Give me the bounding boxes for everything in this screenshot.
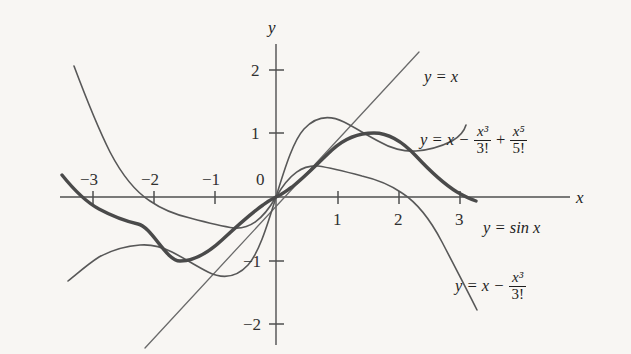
annotation-taylor-3rd: y = x − x³ 3! xyxy=(455,271,527,304)
x-tick-label-3: 3 xyxy=(455,210,464,229)
curve-identity xyxy=(145,52,419,348)
annotation-taylor-5th: y = x − x³ 3! + x⁵ 5! xyxy=(420,125,528,158)
x-tick-label--3: −3 xyxy=(80,170,98,189)
plot-canvas: y x −3 −2 −1 0 1 2 3 2 1 −1 −2 xyxy=(0,0,631,354)
fraction-denominator: 3! xyxy=(474,140,491,157)
y-tick-label--1: −1 xyxy=(243,252,261,271)
annotation-sine-text: y = sin x xyxy=(483,218,540,237)
y-tick-label-2: 2 xyxy=(251,61,260,80)
x-tick-label--1: −1 xyxy=(202,170,220,189)
taylor-series-figure: y x −3 −2 −1 0 1 2 3 2 1 −1 −2 y = x y =… xyxy=(0,0,631,354)
fraction-numerator: x⁵ xyxy=(510,124,527,140)
y-axis-label: y xyxy=(266,18,276,37)
fraction-denominator: 3! xyxy=(509,286,526,303)
fraction-numerator: x³ xyxy=(509,270,526,286)
fraction-x3-over-3fact: x³ 3! xyxy=(509,270,526,303)
y-tick-label--2: −2 xyxy=(243,315,261,334)
annotation-taylor-5th-plus: + xyxy=(496,130,505,149)
fraction-denominator: 5! xyxy=(510,140,527,157)
fraction-x5-over-5fact: x⁵ 5! xyxy=(510,124,527,157)
annotation-taylor-3rd-prefix: y = x − xyxy=(455,276,504,295)
x-tick-label-0: 0 xyxy=(256,170,265,189)
x-tick-label--2: −2 xyxy=(141,170,159,189)
curve-taylor-5th xyxy=(68,118,466,281)
x-axis-label: x xyxy=(575,188,584,207)
annotation-identity: y = x xyxy=(424,67,458,87)
annotation-taylor-5th-prefix: y = x − xyxy=(420,130,469,149)
annotation-identity-text: y = x xyxy=(424,67,458,86)
x-tick-label-2: 2 xyxy=(394,210,403,229)
annotation-sine: y = sin x xyxy=(483,218,540,238)
y-tick-label-1: 1 xyxy=(251,124,260,143)
fraction-numerator: x³ xyxy=(474,124,491,140)
x-tick-label-1: 1 xyxy=(333,210,342,229)
fraction-x3-over-3fact: x³ 3! xyxy=(474,124,491,157)
